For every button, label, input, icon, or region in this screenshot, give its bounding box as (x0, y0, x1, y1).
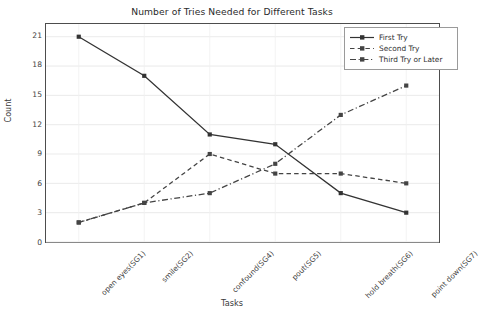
data-point-marker (339, 191, 343, 195)
y-tick-label: 12 (16, 121, 42, 129)
data-point-marker (339, 113, 343, 117)
data-point-marker (77, 220, 81, 224)
legend-label: Second Try (379, 44, 419, 53)
data-point-marker (77, 35, 81, 39)
legend-label: Third Try or Later (379, 55, 442, 64)
y-axis-tick-labels: 036912151821 (12, 23, 42, 243)
y-tick-label: 9 (16, 150, 42, 158)
legend-label: First Try (379, 33, 408, 42)
chart-legend: First Try Second Try Third Try or Later (344, 27, 458, 70)
data-point-marker (273, 142, 277, 146)
data-point-marker (208, 132, 212, 136)
y-tick-label: 3 (16, 209, 42, 217)
x-tick-label: point down(SG7) (429, 249, 479, 299)
y-tick-label: 6 (16, 180, 42, 188)
y-axis-label: Count (4, 81, 13, 141)
x-tick-label: pout(SG5) (290, 249, 323, 282)
chart-title: Number of Tries Needed for Different Tas… (0, 6, 464, 17)
legend-line-sample-solid (349, 32, 375, 43)
y-tick-label: 0 (16, 239, 42, 247)
y-tick-label: 21 (16, 32, 42, 40)
legend-item-first-try: First Try (349, 32, 452, 43)
data-point-marker (273, 162, 277, 166)
data-point-marker (404, 181, 408, 185)
y-tick-label: 15 (16, 91, 42, 99)
legend-item-second-try: Second Try (349, 43, 452, 54)
data-point-marker (404, 84, 408, 88)
x-tick-label: open eyes(SG1) (99, 249, 147, 297)
legend-line-sample-dashed (349, 43, 375, 54)
data-point-marker (273, 171, 277, 175)
data-point-marker (142, 74, 146, 78)
series-line (79, 86, 406, 223)
data-point-marker (208, 152, 212, 156)
x-axis-label: Tasks (0, 298, 464, 308)
legend-line-sample-dashdot (349, 54, 375, 65)
data-point-marker (339, 171, 343, 175)
legend-item-third-try-or-later: Third Try or Later (349, 54, 452, 65)
x-tick-label: smile(SG2) (160, 249, 195, 284)
y-tick-label: 18 (16, 61, 42, 69)
data-point-marker (404, 211, 408, 215)
data-point-marker (208, 191, 212, 195)
data-point-marker (142, 201, 146, 205)
x-tick-label: hold breath(SG6) (364, 249, 415, 300)
series-line (79, 154, 406, 222)
x-tick-label: confound(SG4) (230, 249, 275, 294)
